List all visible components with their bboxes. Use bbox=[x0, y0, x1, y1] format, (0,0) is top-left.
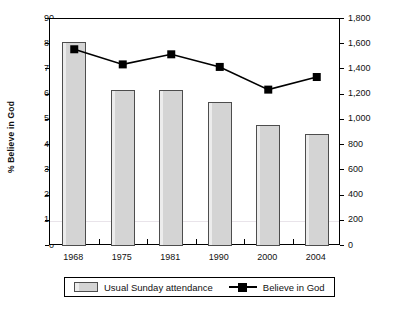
plot-area bbox=[49, 18, 340, 245]
line-marker bbox=[70, 45, 78, 53]
plot-inner bbox=[50, 19, 339, 244]
y-axis-left-tick-label: 10 bbox=[14, 215, 54, 224]
line-marker bbox=[313, 73, 321, 81]
y-axis-right-tick-label: 1,400 bbox=[348, 64, 392, 73]
y-axis-left-tick-label: 60 bbox=[14, 89, 54, 98]
y-axis-right-tick-label: 800 bbox=[348, 140, 392, 149]
y-axis-left-tick-label: 70 bbox=[14, 64, 54, 73]
y-axis-left-tick-label: 50 bbox=[14, 114, 54, 123]
y-axis-left-tick-label: 80 bbox=[14, 39, 54, 48]
x-axis-tick-label: 1975 bbox=[97, 253, 147, 262]
line-marker bbox=[264, 86, 272, 94]
y-axis-right-tick-label: 1,200 bbox=[348, 89, 392, 98]
legend-item-believe: Believe in God bbox=[229, 282, 325, 293]
line-marker bbox=[119, 60, 127, 68]
chart-legend: Usual Sunday attendance Believe in God bbox=[64, 277, 335, 297]
chart-container: % Believe in God Usual Sunday attendance… bbox=[0, 0, 398, 310]
y-axis-left-tick-label: 30 bbox=[14, 165, 54, 174]
y-axis-left-tick-label: 20 bbox=[14, 190, 54, 199]
line-path bbox=[74, 49, 317, 89]
y-axis-right-tick-label: 200 bbox=[348, 215, 392, 224]
legend-label-believe: Believe in God bbox=[263, 282, 325, 293]
legend-label-attendance: Usual Sunday attendance bbox=[104, 282, 213, 293]
y-axis-right-tick-label: 1,000 bbox=[348, 114, 392, 123]
line-marker bbox=[167, 50, 175, 58]
y-axis-left-tick-label: 90 bbox=[14, 14, 54, 23]
legend-item-attendance: Usual Sunday attendance bbox=[74, 282, 213, 293]
y-axis-right-tick-label: 0 bbox=[348, 241, 392, 250]
x-axis-tick-label: 1968 bbox=[48, 253, 98, 262]
x-axis-tick-label: 2000 bbox=[242, 253, 292, 262]
y-axis-left-tick-label: 0 bbox=[14, 241, 54, 250]
line-marker-swatch-icon bbox=[229, 282, 257, 292]
bar-swatch-icon bbox=[74, 282, 98, 292]
y-axis-right-tick-label: 1,800 bbox=[348, 14, 392, 23]
x-axis-tick-label: 1990 bbox=[194, 253, 244, 262]
x-axis-tick-label: 2004 bbox=[291, 253, 341, 262]
line-series-layer bbox=[50, 19, 341, 246]
line-marker bbox=[216, 63, 224, 71]
y-axis-right-tick-label: 600 bbox=[348, 165, 392, 174]
x-axis-tick-label: 1981 bbox=[145, 253, 195, 262]
y-axis-left-tick-label: 40 bbox=[14, 140, 54, 149]
y-axis-right-tick-label: 400 bbox=[348, 190, 392, 199]
y-axis-right-tick-label: 1,600 bbox=[348, 39, 392, 48]
